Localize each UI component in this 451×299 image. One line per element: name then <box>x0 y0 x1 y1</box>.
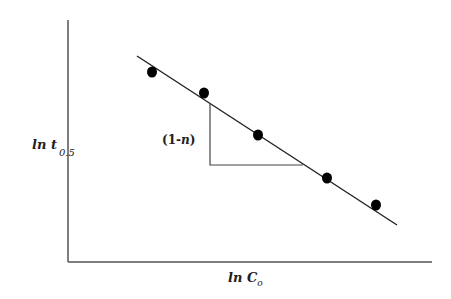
slope-annotation: (1-n) <box>162 133 195 147</box>
data-point <box>199 88 209 99</box>
data-point <box>147 67 157 78</box>
x-axis-label: ln Co <box>228 270 263 285</box>
data-point <box>322 173 332 184</box>
data-point <box>253 130 263 141</box>
y-axis-label: ln t0.5 <box>32 137 75 152</box>
data-point <box>371 200 381 211</box>
